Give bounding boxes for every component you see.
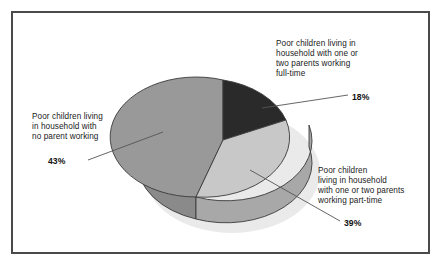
slice-label-full-time: Poor children living in household with o… bbox=[276, 39, 400, 79]
slice-percent-part-time: 39% bbox=[344, 218, 361, 228]
slice-label-part-time: Poor children living in household with o… bbox=[318, 166, 436, 206]
pie-chart: Poor children living in household with o… bbox=[0, 0, 445, 274]
leader-line-full-time bbox=[262, 95, 348, 108]
slice-percent-no-parent: 43% bbox=[48, 156, 65, 166]
slice-label-no-parent: Poor children living in household with n… bbox=[32, 112, 150, 142]
slice-percent-full-time: 18% bbox=[352, 92, 369, 102]
